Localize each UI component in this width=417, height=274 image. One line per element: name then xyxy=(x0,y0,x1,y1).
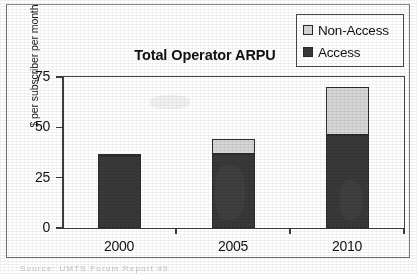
x-axis-tick xyxy=(403,228,404,234)
bar-segment-non-access-2005[interactable] xyxy=(212,139,255,153)
x-axis-tick xyxy=(175,228,176,234)
legend-label-non-access: Non-Access xyxy=(318,23,389,38)
bar-segment-access-2005[interactable] xyxy=(212,154,255,228)
chart-title: Total Operator ARPU xyxy=(110,47,300,63)
x-axis-tick-label: 2010 xyxy=(312,238,382,254)
legend-swatch-access-icon xyxy=(303,47,313,57)
legend-item-access[interactable]: Access xyxy=(303,41,398,63)
chart-legend: Non-Access Access xyxy=(296,14,404,67)
y-axis-tick-label: 50 xyxy=(10,118,50,134)
bar-segment-access-2010[interactable] xyxy=(326,135,369,228)
source-note: Source: UMTS Forum Report #9 xyxy=(20,264,169,273)
bar-2010[interactable] xyxy=(326,87,369,228)
y-axis-tick-label: 0 xyxy=(10,219,50,235)
bar-segment-access-2000[interactable] xyxy=(98,156,141,228)
scanned-chart-figure: Total Operator ARPU Non-Access Access $ … xyxy=(0,0,417,274)
bar-segment-non-access-2010[interactable] xyxy=(326,87,369,135)
legend-swatch-non-access-icon xyxy=(303,25,313,35)
x-axis-tick-label: 2000 xyxy=(84,238,154,254)
x-axis-tick-label: 2005 xyxy=(198,238,268,254)
x-axis-tick xyxy=(289,228,290,234)
bar-segment-non-access-2000[interactable] xyxy=(98,154,141,156)
y-axis-tick-label: 25 xyxy=(10,169,50,185)
bar-2005[interactable] xyxy=(212,139,255,228)
plot-area xyxy=(62,77,404,228)
legend-label-access: Access xyxy=(318,45,360,60)
bar-2000[interactable] xyxy=(98,154,141,228)
y-axis-tick-label: 75 xyxy=(10,68,50,84)
legend-item-non-access[interactable]: Non-Access xyxy=(303,19,398,41)
